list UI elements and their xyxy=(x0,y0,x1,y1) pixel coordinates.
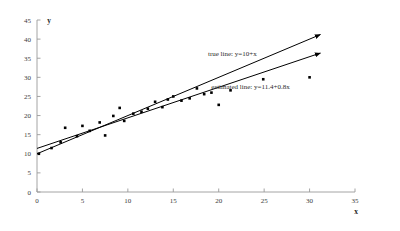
data-point xyxy=(154,100,157,103)
x-tick-label: 0 xyxy=(35,197,39,205)
data-point xyxy=(38,152,41,155)
data-point xyxy=(217,104,220,107)
data-point xyxy=(167,98,170,101)
data-point xyxy=(88,130,91,133)
data-point xyxy=(172,95,175,98)
y-tick-label: 0 xyxy=(28,189,32,197)
y-tick-group: 051015202530354045 xyxy=(24,17,41,197)
data-point xyxy=(203,93,206,96)
x-tick-label: 10 xyxy=(124,197,132,205)
x-tick-label: 30 xyxy=(306,197,314,205)
data-point xyxy=(98,121,101,124)
x-tick-label: 15 xyxy=(170,197,178,205)
y-tick-label: 35 xyxy=(24,55,32,63)
axes-group xyxy=(37,20,355,192)
y-tick-label: 10 xyxy=(24,150,32,158)
data-point xyxy=(118,107,121,110)
data-point xyxy=(262,78,265,81)
x-tick-label: 25 xyxy=(261,197,269,205)
data-point xyxy=(76,135,79,138)
data-point xyxy=(132,112,135,115)
y-tick-label: 20 xyxy=(24,112,32,120)
x-tick-label: 5 xyxy=(81,197,85,205)
data-point xyxy=(123,120,126,123)
y-tick-label: 5 xyxy=(28,169,32,177)
data-point xyxy=(104,134,107,137)
data-point xyxy=(196,87,199,90)
true-line-label: true line: y=10+x xyxy=(208,50,257,58)
y-tick-label: 15 xyxy=(24,131,32,139)
plot-canvas: 05101520253035051015202530354045xytrue l… xyxy=(0,0,400,231)
data-point xyxy=(81,125,84,128)
estimated-line-label: estimated line: y=11.4+0.8x xyxy=(211,83,290,91)
y-axis-title: y xyxy=(47,16,51,25)
data-point xyxy=(188,97,191,100)
y-tick-label: 45 xyxy=(24,17,32,25)
data-point xyxy=(180,99,183,102)
data-point xyxy=(112,115,115,118)
data-point xyxy=(50,147,53,150)
data-point xyxy=(308,76,311,79)
x-tick-label: 35 xyxy=(352,197,360,205)
fit-line-true-line xyxy=(37,35,320,154)
fit-line-estimated-line xyxy=(37,53,320,148)
data-point xyxy=(210,91,213,94)
y-tick-label: 40 xyxy=(24,36,32,44)
data-point xyxy=(161,106,164,109)
data-point xyxy=(59,141,62,144)
data-point xyxy=(147,107,150,110)
scatter-plot-figure: 05101520253035051015202530354045xytrue l… xyxy=(0,0,400,231)
x-tick-label: 20 xyxy=(215,197,223,205)
data-point xyxy=(140,110,143,113)
x-axis-title: x xyxy=(354,207,358,216)
y-tick-label: 25 xyxy=(24,93,32,101)
y-tick-label: 30 xyxy=(24,74,32,82)
x-tick-group: 05101520253035 xyxy=(35,189,359,206)
data-point xyxy=(64,126,67,129)
